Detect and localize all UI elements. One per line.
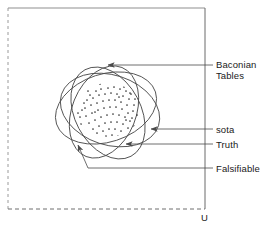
diagram-canvas: BaconianTables sota Truth Falsifiable U <box>0 0 269 230</box>
universe-boundary <box>8 8 205 209</box>
label-sota: sota <box>216 124 234 135</box>
venn-diagram-svg <box>0 0 269 230</box>
set-curve-baconian-tables <box>46 60 166 157</box>
label-universe: U <box>201 212 208 223</box>
label-baconian-tables-line1: Baconian <box>216 59 256 70</box>
set-curves-group <box>46 54 169 172</box>
label-baconian-tables-line2: Tables <box>216 70 244 81</box>
label-truth: Truth <box>216 139 238 150</box>
label-falsifiable: Falsifiable <box>216 163 260 174</box>
leader-line-falsifiable <box>78 145 213 168</box>
label-baconian-tables: BaconianTables <box>216 59 256 81</box>
leader-lines-group <box>78 65 213 168</box>
